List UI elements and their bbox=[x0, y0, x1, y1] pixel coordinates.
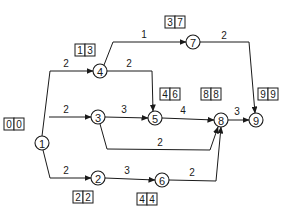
node-label: 1 bbox=[39, 138, 45, 150]
edge-weight-7-9: 2 bbox=[221, 30, 227, 41]
node-3: 3 bbox=[91, 110, 105, 124]
edge-weight-4-7: 1 bbox=[141, 29, 147, 40]
latest-time: 2 bbox=[85, 192, 91, 203]
node-label: 6 bbox=[159, 175, 165, 187]
node-4: 4 bbox=[93, 64, 107, 78]
latest-time: 0 bbox=[16, 119, 22, 130]
node-label: 3 bbox=[95, 112, 101, 124]
latest-time: 4 bbox=[149, 194, 155, 205]
edge-weight-1-2: 2 bbox=[63, 165, 69, 176]
edge-weight-6-8: 2 bbox=[189, 167, 195, 178]
edge-7-9 bbox=[200, 42, 255, 113]
node-9: 9 bbox=[249, 113, 263, 127]
node-label: 8 bbox=[218, 115, 224, 127]
earliest-time: 2 bbox=[75, 192, 81, 203]
time-box-node-7: 3 7 bbox=[165, 16, 185, 28]
edge-weight-1-4: 2 bbox=[63, 58, 69, 69]
latest-time: 3 bbox=[87, 45, 93, 56]
time-box-node-9: 9 9 bbox=[258, 88, 278, 100]
edge-weight-1-3: 2 bbox=[63, 104, 69, 115]
earliest-time: 1 bbox=[77, 45, 83, 56]
earliest-time: 4 bbox=[162, 89, 168, 100]
network-diagram: 2 2 2 1 2 2 3 2 4 3 3 2 1 2 3 4 5 bbox=[0, 0, 297, 222]
earliest-time: 4 bbox=[139, 194, 145, 205]
time-box-node-5: 4 6 bbox=[160, 88, 180, 100]
node-label: 4 bbox=[97, 66, 103, 78]
time-box-node-8: 8 8 bbox=[201, 88, 221, 100]
node-label: 2 bbox=[95, 173, 101, 185]
node-2: 2 bbox=[91, 171, 105, 185]
earliest-time: 9 bbox=[260, 89, 266, 100]
node-6: 6 bbox=[155, 173, 169, 187]
latest-time: 9 bbox=[270, 89, 276, 100]
latest-time: 8 bbox=[213, 89, 219, 100]
node-5: 5 bbox=[148, 111, 162, 125]
edge-6-8 bbox=[169, 127, 221, 181]
edge-weight-3-5: 3 bbox=[121, 104, 127, 115]
edge-weight-5-8: 4 bbox=[180, 105, 186, 116]
edge-3-5 bbox=[105, 117, 148, 118]
earliest-time: 8 bbox=[203, 89, 209, 100]
edge-weight-3-8: 2 bbox=[157, 137, 163, 148]
time-box-node-2: 2 2 bbox=[73, 191, 93, 203]
node-8: 8 bbox=[214, 113, 228, 127]
edge-2-6 bbox=[105, 178, 155, 180]
earliest-time: 3 bbox=[167, 17, 173, 28]
node-1: 1 bbox=[35, 136, 49, 150]
edges bbox=[42, 42, 255, 181]
edge-weight-8-9: 3 bbox=[234, 106, 240, 117]
latest-time: 7 bbox=[177, 17, 183, 28]
time-box-node-1: 0 0 bbox=[4, 118, 24, 130]
edge-5-8 bbox=[162, 118, 214, 120]
latest-time: 6 bbox=[172, 89, 178, 100]
edge-weight-2-6: 3 bbox=[124, 165, 130, 176]
node-label: 7 bbox=[190, 37, 196, 49]
edge-weight-4-5: 2 bbox=[126, 58, 132, 69]
time-box-node-6: 4 4 bbox=[137, 193, 157, 205]
edge-4-7 bbox=[104, 42, 186, 65]
node-7: 7 bbox=[186, 35, 200, 49]
node-label: 5 bbox=[152, 113, 158, 125]
time-box-node-4: 1 3 bbox=[75, 44, 95, 56]
earliest-time: 0 bbox=[6, 119, 12, 130]
nodes: 1 2 3 4 5 6 7 8 bbox=[35, 35, 263, 187]
node-label: 9 bbox=[253, 115, 259, 127]
edge-4-5 bbox=[107, 71, 153, 111]
